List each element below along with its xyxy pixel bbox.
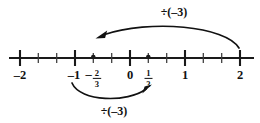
bottom-arc-label: ÷(–3) <box>101 104 128 118</box>
top-arc-label: ÷(–3) <box>161 5 188 19</box>
top-arc-path <box>103 26 239 48</box>
point-marker-one-third <box>146 55 151 60</box>
top-arrow-head <box>96 31 108 39</box>
fraction-denominator-neg-two-thirds: 3 <box>95 79 99 89</box>
fraction-numerator-neg-two-thirds: 2 <box>95 68 99 78</box>
bottom-division-arrow <box>72 83 152 99</box>
axis-label-neg-two-thirds: – 2 3 <box>84 67 101 89</box>
bottom-arc-path <box>72 83 146 99</box>
axis-label-neg-one: –1 <box>67 68 81 82</box>
axis-label-neg-two: –2 <box>13 68 27 82</box>
axis-label-zero: 0 <box>127 68 133 82</box>
fraction-numerator-one-third: 1 <box>146 68 150 78</box>
axis-label-two: 2 <box>237 68 243 82</box>
point-marker-neg-two-thirds <box>91 55 96 60</box>
axis-label-one: 1 <box>182 68 188 82</box>
fraction-sign-neg-two-thirds: – <box>84 67 92 81</box>
number-line-figure: –2 –1 0 1 2 – 2 3 1 3 ÷(–3) ÷(–3) <box>0 0 260 123</box>
top-division-arrow <box>96 26 240 48</box>
number-line-svg: –2 –1 0 1 2 – 2 3 1 3 ÷(–3) ÷(–3) <box>0 0 260 123</box>
bottom-arrow-head <box>142 85 152 94</box>
